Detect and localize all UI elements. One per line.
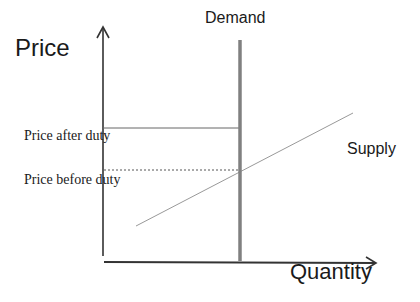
- price-after-duty-label: Price after duty: [24, 128, 110, 144]
- y-axis-title: Price: [15, 34, 70, 62]
- x-axis-title: Quantity: [290, 259, 372, 285]
- price-before-duty-label: Price before duty: [24, 172, 120, 188]
- supply-label: Supply: [347, 140, 396, 158]
- demand-label: Demand: [205, 9, 265, 27]
